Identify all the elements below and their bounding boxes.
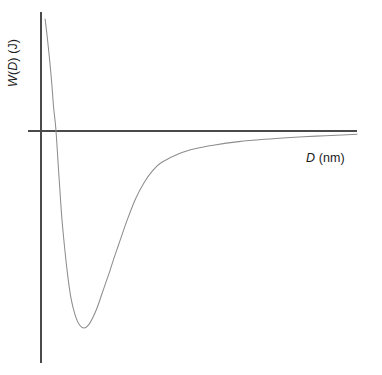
y-axis-label: W(D) (J) — [2, 18, 24, 108]
x-axis-label: D (nm) — [306, 151, 345, 165]
y-axis-label-text: W(D) (J) — [6, 39, 20, 87]
plot-area — [0, 0, 382, 375]
x-axis-label-symbol: D — [306, 151, 315, 165]
chart-figure: W(D) (J) D (nm) — [0, 0, 382, 375]
potential-curve — [45, 19, 357, 328]
x-axis-label-unit: (nm) — [315, 151, 345, 165]
